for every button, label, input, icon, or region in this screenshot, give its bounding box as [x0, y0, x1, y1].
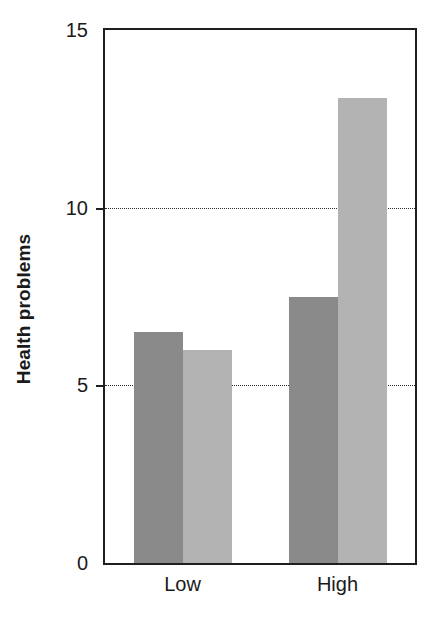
y-tick-mark-5	[96, 385, 105, 387]
bar-high-series-2	[338, 98, 387, 563]
bar-low-series-1	[134, 332, 183, 563]
plot-area	[103, 28, 417, 565]
y-tick-label-10: 10	[66, 196, 88, 219]
y-tick-mark-10	[96, 208, 105, 210]
bar-chart-figure: Health problems 15 10 5 0 Low High	[0, 0, 447, 618]
plot-inner	[105, 30, 415, 563]
y-tick-label-0: 0	[77, 552, 88, 575]
bar-high-series-1	[289, 297, 338, 564]
y-axis-title-text: Health problems	[13, 234, 35, 384]
x-axis-category-labels: Low High	[103, 573, 417, 613]
x-label-high: High	[317, 573, 358, 596]
x-label-low: Low	[164, 573, 201, 596]
y-tick-label-5: 5	[77, 374, 88, 397]
y-axis-tick-labels: 15 10 5 0	[48, 0, 94, 618]
y-tick-label-15: 15	[66, 19, 88, 42]
y-axis-title: Health problems	[0, 0, 48, 618]
bar-low-series-2	[183, 350, 232, 563]
